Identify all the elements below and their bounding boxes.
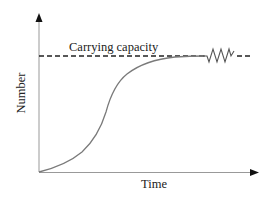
- x-axis-arrow-icon: [250, 169, 259, 176]
- growth-curve: [39, 56, 205, 172]
- y-axis-label: Number: [14, 72, 28, 114]
- fluctuation-zigzag: [203, 49, 234, 62]
- y-axis-arrow-icon: [36, 13, 43, 22]
- carrying-capacity-label: Carrying capacity: [69, 40, 159, 54]
- x-axis-label: Time: [141, 177, 167, 191]
- logistic-growth-chart: Carrying capacity Time Number: [0, 0, 271, 199]
